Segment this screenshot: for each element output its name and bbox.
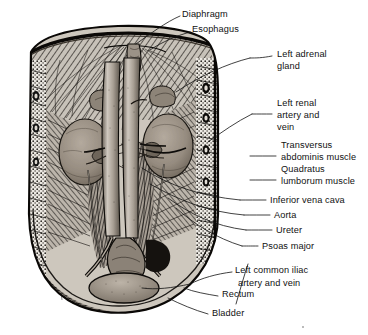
label-quadratus-lumborum-2: lumborum muscle <box>281 176 355 186</box>
ink-speck <box>302 326 303 327</box>
label-transversus-abdominis: Transversus <box>281 140 333 150</box>
label-left-renal-vessels: Left renal <box>277 98 316 108</box>
label-ureter: Ureter <box>276 225 302 235</box>
abdominal-cavity <box>20 20 230 320</box>
label-rectum: Rectum <box>222 289 255 299</box>
inferior-vena-cava <box>102 62 120 236</box>
label-left-adrenal-gland: Left adrenal <box>277 49 327 59</box>
label-psoas-major: Psoas major <box>262 241 314 251</box>
label-left-common-iliac-2: artery and vein <box>238 278 300 288</box>
label-diaphragm: Diaphragm <box>182 9 228 19</box>
anatomy-figure: Diaphragm Esophagus Left adrenal gland L… <box>0 0 368 335</box>
label-esophagus: Esophagus <box>192 24 239 34</box>
label-left-common-iliac: Left common iliac <box>235 265 308 275</box>
bladder <box>89 273 159 303</box>
label-bladder: Bladder <box>212 308 244 318</box>
label-transversus-abdominis-2: abdominis muscle <box>281 152 356 162</box>
label-inferior-vena-cava: Inferior vena cava <box>270 195 346 205</box>
aorta <box>123 58 140 238</box>
label-aorta: Aorta <box>274 210 297 220</box>
label-left-renal-vessels-3: vein <box>277 122 294 132</box>
label-left-adrenal-gland-2: gland <box>277 61 300 71</box>
label-left-renal-vessels-2: artery and <box>277 110 319 120</box>
anatomical-illustration: Diaphragm Esophagus Left adrenal gland L… <box>0 0 368 335</box>
label-quadratus-lumborum: Quadratus <box>281 164 325 174</box>
